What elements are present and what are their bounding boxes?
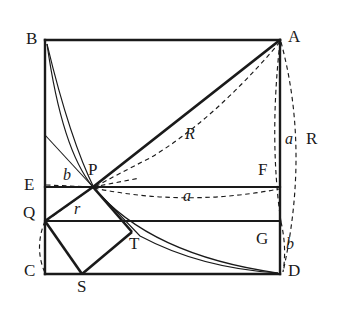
square-side-ST: [82, 232, 132, 274]
label-a-right-arc: a: [285, 131, 293, 147]
dashed-arc-b-G-to-D: [281, 222, 285, 272]
label-A: A: [288, 28, 300, 45]
label-R-diagonal: R: [185, 126, 195, 142]
label-C: C: [24, 262, 35, 279]
label-F: F: [258, 161, 267, 178]
label-a-horizontal: a: [183, 188, 191, 204]
label-T: T: [129, 235, 139, 252]
label-R-right-arc: R: [306, 130, 317, 147]
label-S: S: [77, 278, 86, 295]
label-b-near-p: b: [63, 167, 71, 183]
horizontal-chords: [45, 187, 280, 221]
geometry-figure: B A E Q C D F G P S T R a b r a R b: [0, 0, 340, 324]
label-E: E: [24, 176, 34, 193]
square-side-QS: [45, 221, 82, 274]
label-r-incircle: r: [74, 201, 80, 217]
label-B: B: [26, 30, 37, 47]
label-Q: Q: [23, 204, 35, 221]
diagonal-AP: [93, 40, 280, 187]
square-pqst: [45, 187, 132, 274]
label-D: D: [288, 262, 300, 279]
label-G: G: [256, 230, 268, 247]
label-b-right-arc: b: [286, 236, 294, 252]
label-P: P: [88, 161, 97, 178]
